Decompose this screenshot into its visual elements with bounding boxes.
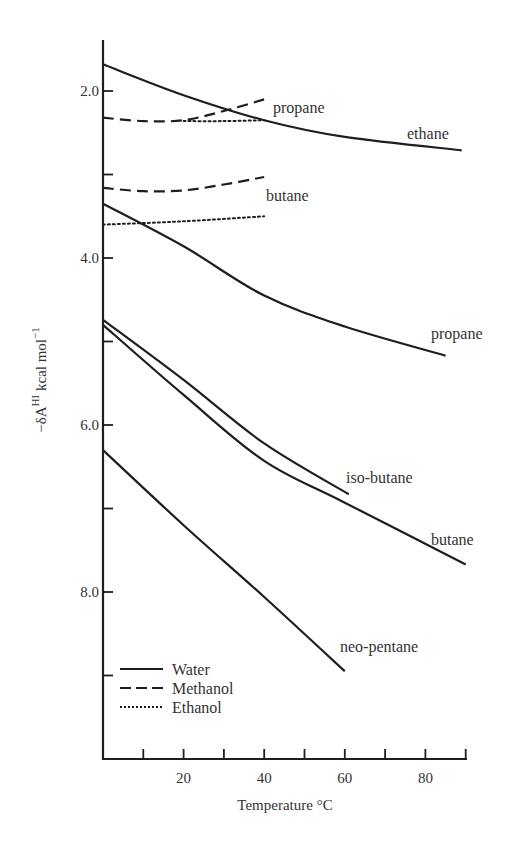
legend-label-methanol: Methanol <box>172 680 234 697</box>
y-axis-title-main: −δA <box>33 406 49 433</box>
series-line-propane-methanol <box>103 99 264 121</box>
curve-label: propane <box>431 325 483 343</box>
legend-label-ethanol: Ethanol <box>172 699 222 716</box>
legend-label-water: Water <box>172 661 210 678</box>
y-tick-label: 8.0 <box>80 584 99 600</box>
axes: 204060802.04.06.08.0 <box>80 40 467 786</box>
y-axis-title: −δAHI kcal mol−1 <box>29 327 49 433</box>
curve-label: iso-butane <box>346 469 413 486</box>
x-tick-label: 40 <box>257 770 272 786</box>
y-tick-label: 4.0 <box>80 250 99 266</box>
series-line-butane-methanol <box>103 177 264 191</box>
chart: 204060802.04.06.08.0 ethanepropanebutane… <box>0 0 524 842</box>
legend: WaterMethanolEthanol <box>120 661 234 716</box>
series-line-iso-butane-water <box>103 320 349 495</box>
x-tick-label: 60 <box>337 770 352 786</box>
y-tick-label: 2.0 <box>80 83 99 99</box>
curve-label: butane <box>431 531 474 548</box>
y-axis-title-unit: kcal mol <box>33 339 49 395</box>
y-tick-label: 6.0 <box>80 417 99 433</box>
x-axis-title: Temperature °C <box>237 797 332 813</box>
series-line-propane-ethanol <box>184 120 265 121</box>
series-lines <box>103 64 466 671</box>
curve-label: ethane <box>407 125 449 142</box>
curve-labels: ethanepropanebutanepropaneiso-butanebuta… <box>266 99 483 656</box>
series-line-propane-water <box>103 204 446 356</box>
y-axis-title-unit-sup: −1 <box>29 327 41 339</box>
curve-label: butane <box>266 187 309 204</box>
series-line-butane-ethanol <box>103 216 264 224</box>
y-axis-title-sup: HI <box>29 394 41 406</box>
x-tick-label: 80 <box>418 770 433 786</box>
x-tick-label: 20 <box>176 770 191 786</box>
series-line-neo-pentane-water <box>103 450 345 671</box>
curve-label: neo-pentane <box>340 638 418 656</box>
curve-label: propane <box>273 99 325 117</box>
